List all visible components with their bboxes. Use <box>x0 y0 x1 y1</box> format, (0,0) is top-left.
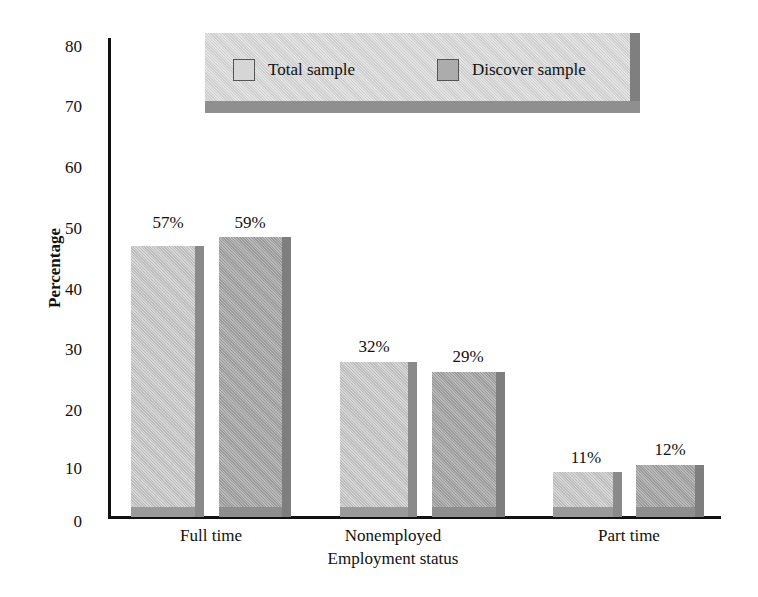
legend: Total sample Discover sample <box>205 33 640 113</box>
bar-part-time-total <box>553 472 622 517</box>
value-label-nonemployed-discover: 29% <box>428 347 508 367</box>
bar-part-time-discover <box>636 465 704 517</box>
y-tick-50: 50 <box>42 219 82 239</box>
y-tick-10: 10 <box>42 459 82 479</box>
y-tick-60: 60 <box>42 158 82 178</box>
bar-full-time-total <box>131 246 204 517</box>
y-tick-20: 20 <box>42 401 82 421</box>
legend-shadow-bottom <box>205 101 640 113</box>
bar-nonemployed-discover <box>432 372 505 517</box>
value-label-part-time-discover: 12% <box>630 440 710 460</box>
x-axis-title: Employment status <box>283 549 503 569</box>
bar-nonemployed-total <box>340 362 417 517</box>
value-label-full-time-total: 57% <box>128 213 208 233</box>
value-label-full-time-discover: 59% <box>210 213 290 233</box>
y-tick-30: 30 <box>42 340 82 360</box>
legend-label-discover: Discover sample <box>472 59 586 81</box>
y-axis-line <box>108 38 111 519</box>
x-category-part-time: Part time <box>559 526 699 546</box>
y-tick-80: 80 <box>42 37 82 57</box>
value-label-part-time-total: 11% <box>546 448 626 468</box>
legend-swatch-total <box>233 59 255 81</box>
x-category-nonemployed: Nonemployed <box>323 526 463 546</box>
legend-label-total: Total sample <box>268 59 355 81</box>
legend-swatch-discover <box>437 59 459 81</box>
bar-full-time-discover <box>219 237 291 517</box>
y-tick-70: 70 <box>42 97 82 117</box>
y-tick-0: 0 <box>42 512 82 532</box>
value-label-nonemployed-total: 32% <box>334 337 414 357</box>
y-tick-40: 40 <box>42 280 82 300</box>
x-category-full-time: Full time <box>141 526 281 546</box>
